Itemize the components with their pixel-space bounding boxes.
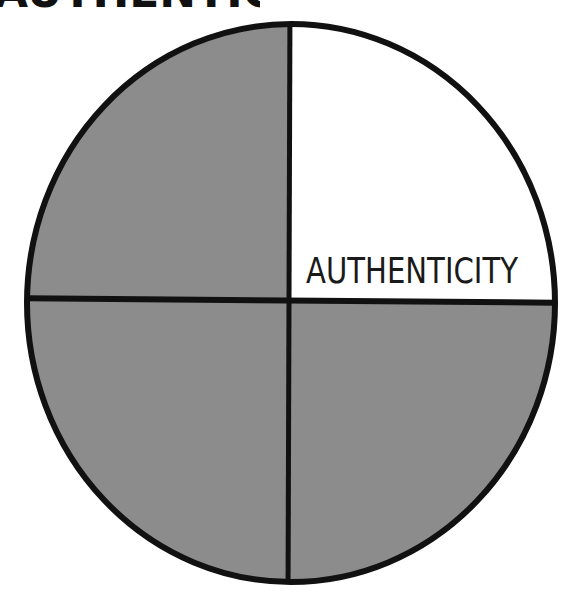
quadrant-bottom-right	[290, 302, 587, 602]
quadrant-label-authenticity: AUTHENTICITY	[306, 251, 519, 291]
quadrant-circle-diagram: AUTHENTICITY	[0, 0, 587, 602]
quadrant-bottom-left	[0, 298, 290, 602]
quadrant-top-left	[0, 0, 290, 301]
